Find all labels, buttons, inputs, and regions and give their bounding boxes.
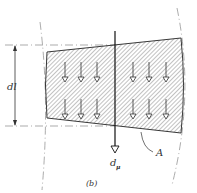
- label-d-mu-subscript: μ: [116, 163, 121, 171]
- label-dl: dl: [7, 81, 17, 92]
- figure-caption: (b): [86, 179, 97, 188]
- arrow-up-icon: [13, 45, 17, 51]
- leader-line-a: [141, 132, 153, 152]
- hollow-arrowhead-icon: [111, 146, 119, 153]
- magnetic-slab-diagram: dl d μ A (b): [0, 0, 197, 193]
- left-dashed-arc: [40, 22, 46, 190]
- arrow-down-icon: [13, 120, 17, 126]
- label-a: A: [155, 147, 163, 158]
